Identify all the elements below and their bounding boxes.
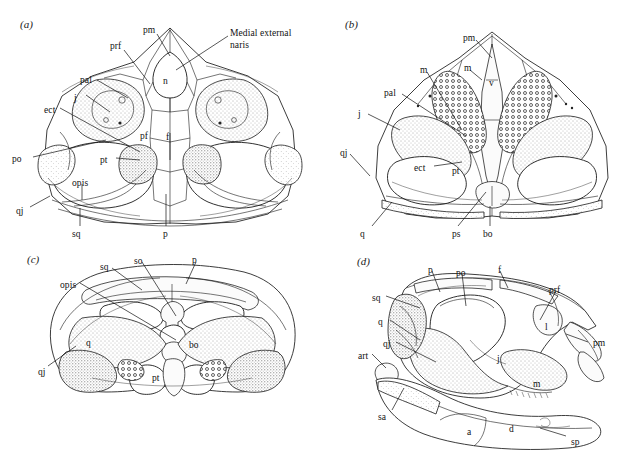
- label-c-so: so: [134, 256, 143, 267]
- label-c-p: p: [192, 255, 197, 266]
- label-c-qj: qj: [38, 367, 46, 378]
- label-b-bo: bo: [483, 229, 493, 240]
- panel-a-artwork: [38, 28, 302, 226]
- panel-b-artwork: [376, 32, 608, 219]
- skull-illustration: [0, 0, 634, 460]
- label-a-sq: sq: [72, 229, 81, 240]
- label-b-ect: ect: [414, 163, 425, 174]
- label-c-q: q: [86, 338, 91, 349]
- label-d-f: f: [498, 265, 501, 276]
- label-d-art: art: [358, 351, 368, 362]
- label-b-qj: qj: [340, 148, 348, 159]
- label-c-pt: pt: [152, 373, 160, 384]
- label-c-sq: sq: [100, 262, 109, 273]
- label-d-sa: sa: [378, 412, 386, 423]
- label-d-a: a: [467, 427, 471, 438]
- label-a-medial-external-naris: Medial external naris: [230, 28, 292, 51]
- label-b-m-right: m: [464, 63, 472, 74]
- panel-d-artwork: [375, 274, 604, 450]
- label-a-po: po: [12, 154, 22, 165]
- label-d-d: d: [509, 424, 514, 435]
- label-a-j: j: [74, 93, 77, 104]
- panel-c-artwork: [50, 265, 295, 397]
- label-a-ect: ect: [44, 105, 55, 116]
- figure-root: (a) (b) (c) (d) pm prf Medial external n…: [0, 0, 634, 460]
- label-d-sp: sp: [571, 437, 580, 448]
- panel-letter-c: (c): [27, 253, 39, 265]
- label-b-v: v: [489, 78, 494, 89]
- label-d-l: l: [545, 322, 548, 333]
- label-d-sq: sq: [372, 293, 381, 304]
- label-b-j: j: [358, 109, 361, 120]
- label-b-q: q: [360, 229, 365, 240]
- label-a-pal: pal: [80, 75, 92, 86]
- label-a-pf: pf: [140, 131, 148, 142]
- panel-letter-d: (d): [357, 255, 370, 267]
- label-a-f: f: [166, 132, 169, 143]
- label-b-pal: pal: [384, 88, 396, 99]
- label-a-pm: pm: [143, 25, 155, 36]
- label-c-bo: bo: [189, 340, 199, 351]
- label-d-p: p: [428, 265, 433, 276]
- panel-letter-a: (a): [20, 18, 33, 30]
- label-d-po: po: [456, 268, 466, 279]
- label-c-opis: opis: [60, 280, 76, 291]
- panel-letter-b: (b): [345, 18, 358, 30]
- label-d-m: m: [533, 379, 541, 390]
- label-b-pm: pm: [463, 33, 475, 44]
- label-d-pm: pm: [593, 338, 605, 349]
- label-a-prf: prf: [110, 41, 121, 52]
- label-a-n: n: [163, 76, 168, 87]
- label-a-p: p: [163, 229, 168, 240]
- label-a-qj: qj: [16, 206, 24, 217]
- label-d-q: q: [378, 317, 383, 328]
- label-a-opis: opis: [72, 178, 88, 189]
- label-b-pt: pt: [452, 166, 460, 177]
- label-d-j: j: [497, 354, 500, 365]
- label-d-prf: prf: [549, 285, 560, 296]
- label-a-pt: pt: [100, 155, 108, 166]
- label-b-ps: ps: [452, 229, 461, 240]
- label-d-qj: qj: [383, 339, 391, 350]
- label-b-m-left: m: [420, 65, 428, 76]
